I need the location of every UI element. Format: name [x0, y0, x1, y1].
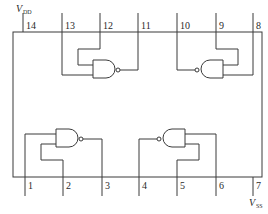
- nand-gate-body: [93, 60, 115, 78]
- pin-1-label: 1: [28, 180, 33, 191]
- pin-13-label: 13: [65, 20, 75, 31]
- vdd-subscript: DD: [23, 9, 32, 15]
- nand-bubble: [157, 137, 161, 141]
- pin-2-label: 2: [66, 180, 71, 191]
- wire-pin2: [41, 144, 63, 177]
- pin-5-label: 5: [180, 180, 185, 191]
- pin-10-label: 10: [180, 20, 190, 31]
- pin-8-label: 8: [256, 20, 261, 31]
- wire-pin6: [185, 134, 216, 177]
- wire-pin11: [120, 32, 138, 70]
- nand-gate-body: [201, 60, 223, 78]
- wire-pin10: [177, 32, 195, 70]
- vss-label: V SS: [249, 197, 263, 209]
- pin-4-label: 4: [142, 180, 147, 191]
- nand-gate-body: [163, 129, 185, 147]
- nand-gate-1: [25, 129, 102, 177]
- nand-bubble: [79, 137, 83, 141]
- nand-bubble: [116, 68, 120, 72]
- wire-pin5: [177, 144, 199, 177]
- bottom-pins: 1 2 3 4 5 6 7: [25, 177, 261, 196]
- wire-pin4: [139, 139, 157, 177]
- pin-12-label: 12: [103, 20, 113, 31]
- pin-6-label: 6: [219, 180, 224, 191]
- ic-pinout-diagram: 14 13 12 11 10 9 8 V DD 1 2 3 4 5 6 7 V …: [0, 0, 268, 214]
- nand-gate-4: [177, 32, 253, 78]
- pin-7-label: 7: [256, 180, 261, 191]
- top-pins: 14 13 12 11 10 9 8: [23, 13, 261, 32]
- nand-gate-body: [56, 129, 78, 147]
- vdd-label: V DD: [16, 3, 32, 15]
- pin-3-label: 3: [105, 180, 110, 191]
- vss-subscript: SS: [256, 203, 263, 209]
- nand-gate-3: [62, 32, 138, 78]
- nand-bubble: [195, 68, 199, 72]
- pin-9-label: 9: [219, 20, 224, 31]
- nand-gate-2: [139, 129, 216, 177]
- pin-11-label: 11: [141, 20, 151, 31]
- wire-pin3: [83, 139, 102, 177]
- pin-14-label: 14: [26, 20, 36, 31]
